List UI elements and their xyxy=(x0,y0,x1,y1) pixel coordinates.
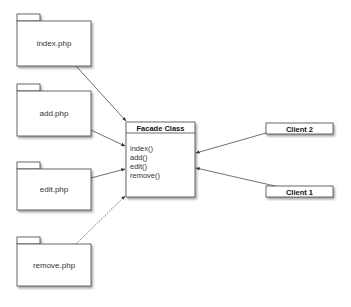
package-tab xyxy=(17,14,40,21)
facade-method: add() xyxy=(130,153,148,162)
edge-client1-to-facade xyxy=(196,168,275,186)
facade-diagram: index.php add.php edit.php remove.php Fa… xyxy=(0,0,351,307)
package-label-remove: remove.php xyxy=(33,261,76,270)
package-tab xyxy=(17,84,40,91)
edge-edit-to-facade xyxy=(91,169,125,178)
facade-method: remove() xyxy=(130,171,161,180)
package-label-index: index.php xyxy=(37,39,72,48)
facade-title: Facade Class xyxy=(137,124,185,133)
edge-add-to-facade xyxy=(91,130,125,146)
package-tab xyxy=(17,162,40,169)
package-tab xyxy=(17,237,40,244)
package-label-edit: edit.php xyxy=(40,185,69,194)
facade-method: edit() xyxy=(130,162,148,171)
client-2-label: Client 2 xyxy=(286,125,313,134)
facade-method: index() xyxy=(130,144,153,153)
package-label-add: add.php xyxy=(40,109,69,118)
client-1-label: Client 1 xyxy=(286,188,313,197)
edge-client2-to-facade xyxy=(196,133,266,153)
